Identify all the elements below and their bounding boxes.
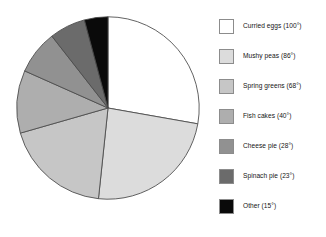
legend-item: Cheese pie (28°) [219, 131, 323, 161]
legend-swatch [219, 109, 234, 124]
legend-swatch [219, 49, 234, 64]
pie-chart [12, 12, 204, 204]
legend-item: Other (15°) [219, 191, 323, 221]
legend-label: Fish cakes (40°) [243, 112, 292, 119]
legend-label: Other (15°) [243, 202, 276, 209]
chart-legend: Curried eggs (100°)Mushy peas (86°)Sprin… [219, 11, 323, 221]
legend-label: Spinach pie (23°) [243, 172, 295, 179]
legend-item: Mushy peas (86°) [219, 41, 323, 71]
pie-slice [108, 17, 199, 124]
legend-item: Curried eggs (100°) [219, 11, 323, 41]
legend-label: Mushy peas (86°) [243, 52, 296, 59]
legend-label: Cheese pie (28°) [243, 142, 293, 149]
legend-item: Spinach pie (23°) [219, 161, 323, 191]
legend-item: Spring greens (68°) [219, 71, 323, 101]
pie-slice-group [17, 17, 199, 199]
legend-label: Spring greens (68°) [243, 82, 301, 89]
legend-swatch [219, 19, 234, 34]
legend-swatch [219, 139, 234, 154]
legend-label: Curried eggs (100°) [243, 22, 302, 29]
legend-swatch [219, 169, 234, 184]
pie-slice [98, 108, 197, 199]
legend-item: Fish cakes (40°) [219, 101, 323, 131]
pie-chart-figure: Curried eggs (100°)Mushy peas (86°)Sprin… [0, 0, 326, 237]
legend-swatch [219, 79, 234, 94]
legend-swatch [219, 199, 234, 214]
pie-chart-svg [12, 12, 204, 204]
